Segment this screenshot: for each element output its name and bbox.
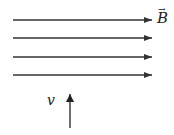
velocity-label: v xyxy=(47,92,55,108)
magnetic-field-label: B xyxy=(157,9,168,27)
field-diagram xyxy=(0,0,174,135)
magnetic-field-lines xyxy=(13,20,152,75)
